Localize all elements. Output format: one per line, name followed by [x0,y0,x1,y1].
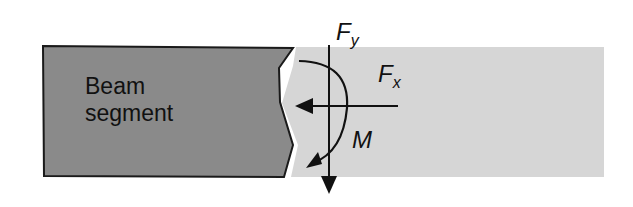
force-y-label: Fy [336,18,359,50]
section-region [282,47,604,177]
force-x-label: Fx [378,60,401,92]
force-y-subscript: y [351,32,359,49]
force-y-arrowhead-icon [321,176,337,194]
segment-label-line2: segment [85,100,173,127]
moment-label: M [352,126,372,154]
segment-label-line1: Beam [85,73,173,100]
force-y-symbol: F [336,18,351,45]
segment-label: Beam segment [85,73,173,127]
force-x-subscript: x [393,74,401,91]
force-x-symbol: F [378,60,393,87]
